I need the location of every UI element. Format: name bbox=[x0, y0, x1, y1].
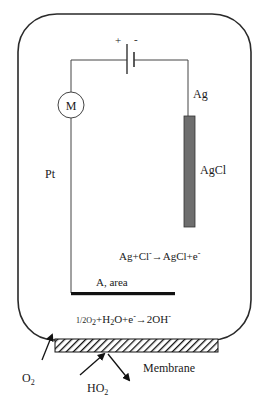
ho2-out-arrow-icon bbox=[108, 354, 129, 380]
ho2-label: HO2 bbox=[87, 381, 108, 397]
battery-plus-label: + bbox=[115, 34, 121, 46]
ho2-in-arrow-icon bbox=[80, 354, 104, 375]
o2-label: O2 bbox=[22, 371, 35, 387]
meter-label: M bbox=[66, 99, 77, 113]
pt-label: Pt bbox=[45, 167, 56, 181]
membrane bbox=[55, 339, 218, 352]
cathode-area-label: A, area bbox=[96, 276, 128, 288]
membrane-label: Membrane bbox=[143, 361, 195, 375]
pt-cathode-plate bbox=[71, 292, 175, 295]
wire-right-top bbox=[134, 60, 188, 116]
anode-reaction: Ag+Cl-→AgCl+e- bbox=[119, 249, 201, 262]
agcl-electrode bbox=[184, 116, 195, 227]
battery-icon bbox=[127, 44, 134, 74]
wire-left-top bbox=[71, 60, 127, 92]
sensor-diagram: + - M Ag AgCl Pt Ag+Cl-→AgCl+e- A, area … bbox=[0, 0, 265, 409]
agcl-label: AgCl bbox=[200, 163, 227, 177]
cathode-reaction: 1/2O1/2O2+H2O+e-→2OH- bbox=[76, 312, 171, 327]
ag-label: Ag bbox=[193, 87, 208, 101]
battery-minus-label: - bbox=[134, 33, 138, 45]
